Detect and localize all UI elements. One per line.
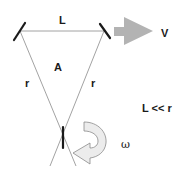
label-right-side: r	[91, 77, 96, 89]
velocity-arrow-icon	[114, 17, 153, 45]
label-top-side: L	[59, 14, 66, 26]
label-area: A	[54, 61, 62, 73]
sagnac-diagram: L V A r r L << r ω	[0, 0, 189, 176]
label-left-side: r	[25, 77, 30, 89]
label-velocity: V	[161, 27, 169, 39]
rotation-arrow-icon	[73, 122, 106, 164]
left-beam-line	[20, 31, 76, 166]
label-condition: L << r	[142, 102, 172, 114]
left-mirror	[14, 23, 25, 40]
label-angular-velocity: ω	[121, 138, 130, 151]
